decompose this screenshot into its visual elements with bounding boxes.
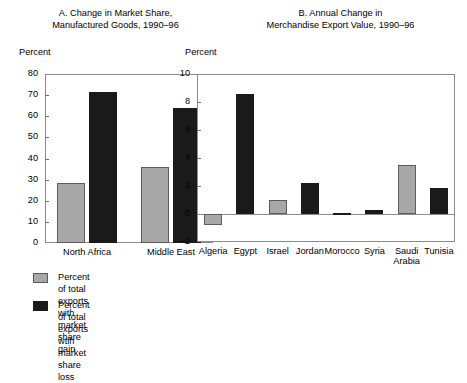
- panel-a-title: A. Change in Market Share, Manufactured …: [8, 8, 223, 31]
- panel-a-y-tick-mark: [45, 116, 49, 117]
- panel-a-y-tick-label: 10: [5, 217, 38, 226]
- panel-a-y-tick-label: 0: [5, 238, 38, 247]
- panel-b-y-tick-label: 4: [157, 153, 190, 162]
- panel-b-bar: [301, 183, 319, 214]
- panel-b-bar: [269, 200, 287, 214]
- panel-a-y-tick-mark: [45, 95, 49, 96]
- panel-a-bar: [89, 92, 117, 243]
- panel-b-zero-line: [197, 214, 455, 215]
- panel-b-axis-unit-label: Percent: [185, 47, 217, 57]
- panel-b-title: B. Annual Change in Merchandise Export V…: [228, 8, 453, 31]
- legend-swatch: [33, 273, 48, 283]
- panel-a-y-tick-label: 20: [5, 196, 38, 205]
- panel-a-bar: [141, 167, 169, 243]
- panel-a-y-tick-mark: [45, 180, 49, 181]
- panel-b-y-tick-label: 0: [157, 209, 190, 218]
- panel-b-y-tick-mark: [197, 102, 201, 103]
- panel-a-y-tick-label: 30: [5, 175, 38, 184]
- panel-a-category-label: North Africa: [45, 247, 129, 257]
- panel-b-y-tick-label: 2: [157, 181, 190, 190]
- panel-b-y-tick-mark: [197, 186, 201, 187]
- panel-a-y-tick-mark: [45, 159, 49, 160]
- panel-a-y-tick-label: 50: [5, 132, 38, 141]
- panel-b-y-tick-label: 6: [157, 125, 190, 134]
- panel-b-bar: [398, 165, 416, 214]
- panel-b-bar: [333, 213, 351, 215]
- panel-a-axis-unit-label: Percent: [19, 47, 51, 57]
- panel-b-bar: [236, 94, 254, 214]
- legend-label: Percent of total exports wtih market sha…: [58, 299, 90, 383]
- panel-a-y-tick-mark: [45, 222, 49, 223]
- panel-a-bar: [57, 183, 85, 243]
- panel-b-bar: [204, 214, 222, 225]
- panel-a-y-tick-label: 60: [5, 111, 38, 120]
- panel-b-bar: [365, 210, 383, 214]
- panel-b-category-label: Tunisia: [419, 246, 459, 256]
- panel-a-y-tick-mark: [45, 137, 49, 138]
- panel-a-y-tick-label: 70: [5, 90, 38, 99]
- panel-a-y-tick-mark: [45, 201, 49, 202]
- panel-b-bar: [430, 188, 448, 214]
- panel-b-y-tick-mark: [197, 130, 201, 131]
- panel-b-y-tick-label: –2: [157, 237, 190, 246]
- panel-b-y-tick-label: 8: [157, 97, 190, 106]
- panel-b-y-tick-mark: [197, 158, 201, 159]
- panel-b-y-tick-label: 10: [157, 69, 190, 78]
- legend-swatch: [33, 301, 48, 311]
- panel-a-y-tick-label: 80: [5, 69, 38, 78]
- panel-a-y-tick-label: 40: [5, 154, 38, 163]
